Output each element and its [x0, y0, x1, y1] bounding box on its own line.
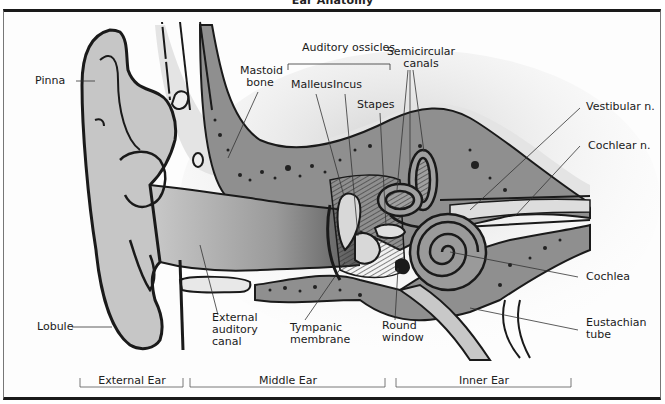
label-malleus: Malleus	[291, 79, 333, 91]
label-round-window: Round window	[382, 320, 424, 344]
label-semicircular-canals: Semicircular canals	[385, 46, 457, 70]
label-cochlear-nerve: Cochlear n.	[588, 140, 650, 152]
label-semicircular-canals-line2: canals	[385, 58, 457, 70]
label-eustachian-tube-line2: tube	[586, 329, 647, 341]
label-cochlea: Cochlea	[586, 271, 630, 283]
section-inner-ear: Inner Ear	[396, 374, 572, 387]
label-mastoid-bone: Mastoid bone	[240, 65, 280, 89]
label-vestibular-nerve: Vestibular n.	[586, 101, 655, 113]
label-lobule: Lobule	[37, 321, 73, 333]
label-tympanic-membrane: Tympanic membrane	[290, 322, 350, 346]
stapes	[375, 225, 405, 239]
label-tympanic-membrane-line2: membrane	[290, 334, 350, 346]
label-stapes: Stapes	[357, 99, 395, 111]
label-incus: Incus	[333, 79, 362, 91]
label-external-auditory-canal: External auditory canal	[212, 312, 258, 348]
label-round-window-line2: window	[382, 332, 424, 344]
section-middle-ear: Middle Ear	[190, 374, 386, 387]
label-eustachian-tube: Eustachian tube	[586, 317, 647, 341]
label-external-auditory-canal-line3: canal	[212, 336, 258, 348]
section-external-ear: External Ear	[80, 374, 184, 387]
cochlea	[410, 214, 486, 290]
label-auditory-ossicles: Auditory ossicles	[302, 42, 395, 54]
label-pinna: Pinna	[35, 75, 65, 87]
label-mastoid-bone-line2: bone	[240, 77, 280, 89]
